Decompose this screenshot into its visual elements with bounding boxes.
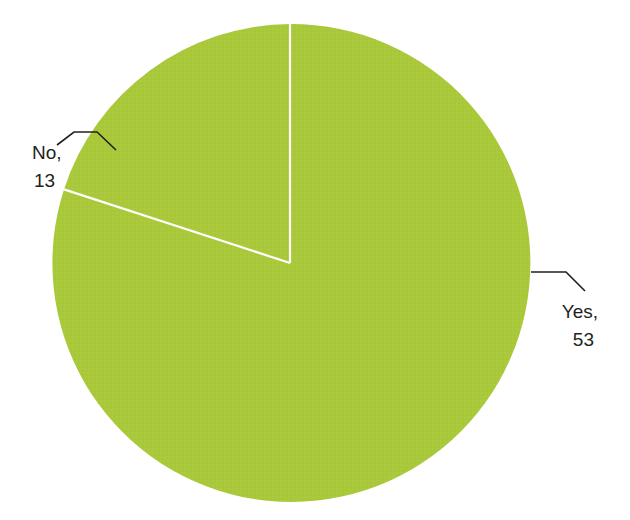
- pie-label-no-line2: 13: [34, 170, 55, 191]
- pie-label-yes-line1: Yes,: [562, 301, 598, 322]
- pie-label-yes-line2: 53: [573, 329, 594, 350]
- pie-chart-canvas: No, 13 Yes, 53: [0, 0, 630, 520]
- pie-label-no-line1: No,: [32, 142, 62, 163]
- pie-chart-figure: No, 13 Yes, 53: [0, 0, 630, 520]
